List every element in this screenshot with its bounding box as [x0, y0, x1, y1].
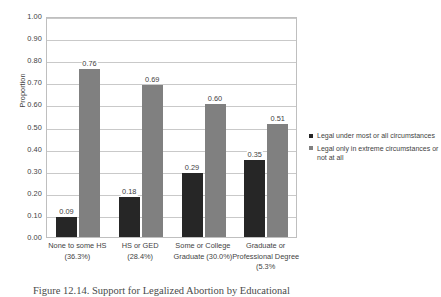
y-axis-tick-label: 0.50: [2, 123, 42, 132]
figure-caption: Figure 12.14. Support for Legalized Abor…: [33, 284, 433, 297]
bar-value-label: 0.29: [184, 163, 200, 172]
y-axis-tick-label: 0.00: [2, 233, 42, 242]
y-axis-tick-label: 0.80: [2, 56, 42, 65]
plot-area: 0.090.760.180.690.290.600.350.51: [46, 17, 297, 238]
bar-value-label: 0.51: [270, 114, 286, 123]
y-axis-tick-label: 0.30: [2, 167, 42, 176]
y-axis-tick-label: 0.20: [2, 189, 42, 198]
y-axis-tick-label: 0.70: [2, 78, 42, 87]
bar-value-label: 0.18: [121, 187, 137, 196]
bar-value-label: 0.69: [144, 75, 160, 84]
x-axis-category-line: Professional Degree: [229, 252, 303, 263]
legend-swatch-icon: [309, 134, 313, 138]
bar-value-label: 0.60: [207, 94, 223, 103]
bar: 0.60: [205, 104, 226, 237]
bar-value-label: 0.76: [81, 59, 97, 68]
y-axis-tick-label: 0.60: [2, 100, 42, 109]
bar-value-label: 0.09: [58, 207, 74, 216]
bar: 0.76: [79, 69, 100, 237]
bar: 0.18: [119, 197, 140, 237]
legend-label: Legal only in extreme circumstances or n…: [317, 145, 438, 162]
bar: 0.35: [244, 160, 265, 237]
bar: 0.09: [56, 217, 77, 237]
bar: 0.69: [142, 85, 163, 237]
legend-swatch-icon: [309, 146, 313, 150]
bar: 0.29: [182, 173, 203, 237]
bar-value-label: 0.35: [247, 150, 263, 159]
legend-entry[interactable]: Legal under most or all circumstances: [309, 131, 439, 141]
bar-group: 0.090.76: [47, 18, 110, 237]
bar-group: 0.180.69: [110, 18, 173, 237]
legend-entry[interactable]: Legal only in extreme circumstances or n…: [309, 144, 439, 163]
y-axis-tick-label: 0.10: [2, 211, 42, 220]
bar-group: 0.350.51: [235, 18, 298, 237]
y-axis-tick-label: 1.00: [2, 12, 42, 21]
chart-legend: Legal under most or all circumstancesLeg…: [309, 131, 439, 166]
bar: 0.51: [267, 124, 288, 237]
y-axis-tick-label: 0.40: [2, 145, 42, 154]
x-axis-category-label: Graduate orProfessional Degree(5.3%: [229, 241, 303, 273]
x-axis-category-line: Graduate or: [229, 241, 303, 252]
y-axis-tick-label: 0.90: [2, 34, 42, 43]
x-axis-category-line: (5.3%: [229, 262, 303, 273]
legend-label: Legal under most or all circumstances: [317, 132, 435, 139]
bar-group: 0.290.60: [173, 18, 236, 237]
